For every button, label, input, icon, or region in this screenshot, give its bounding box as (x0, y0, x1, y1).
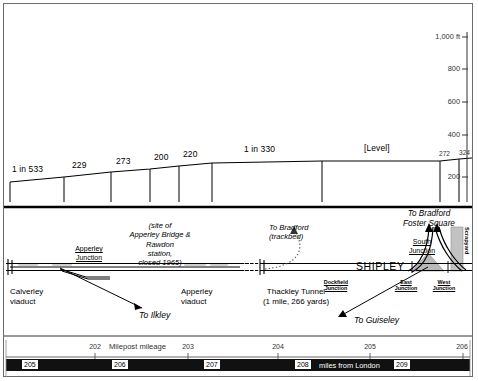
gradient-label-273: 273 (116, 156, 130, 166)
scale-tick-205: 205 (355, 343, 385, 350)
route-plan-panel: Calverleyviaduct Apperleyviaduct Apperle… (4, 205, 472, 338)
apperley-junction-label: ApperleyJunction (61, 245, 117, 262)
south-junction-label: SouthJunction (400, 238, 444, 255)
dockfield-junction-label: DockfieldJunction (316, 279, 356, 291)
milepost-box-205: 205 (22, 360, 38, 369)
shipley-station-label: SHIPLEY (356, 260, 405, 272)
milepost-box-208: 208 (295, 360, 311, 369)
gradient-label-level: [Level] (364, 143, 390, 153)
scale-tick-202: 202 (80, 343, 110, 350)
west-junction-label: WestJunction (428, 279, 460, 291)
miles-from-london-caption: miles from London (319, 361, 380, 370)
to-bradford-foster-square-label: To BradfordFoster Square (386, 209, 472, 228)
milepost-scale-panel: 202 203 204 205 206 Milepost mileage 205… (4, 340, 472, 376)
axis-tick-600: 600 (412, 97, 460, 106)
scale-tick-206: 206 (447, 343, 472, 350)
axis-tick-800: 800 (412, 64, 460, 73)
calverley-viaduct-label: Calverleyviaduct (10, 287, 43, 307)
gradient-label-272: 272 (439, 150, 450, 157)
axis-tick-200: 200 (412, 172, 460, 181)
milepost-box-206: 206 (112, 360, 128, 369)
apperley-viaduct-label: Apperleyviaduct (181, 287, 213, 307)
gradient-label-229: 229 (72, 160, 86, 170)
gradient-label-200: 200 (154, 152, 168, 162)
axis-tick-1000ft: 1,000 ft (412, 32, 460, 41)
axis-tick-400: 400 (412, 130, 460, 139)
gradient-label-1-in-330: 1 in 330 (244, 144, 275, 154)
gradient-label-324: 324 (459, 149, 470, 156)
to-bradford-trackbed-label: To Bradford(trackbed) (269, 223, 308, 241)
to-ilkley-arrowhead (134, 303, 142, 310)
gradient-label-220: 220 (183, 149, 197, 159)
scale-graphics (4, 340, 472, 376)
gradient-profile-diagram: 1 in 533 229 273 200 220 1 in 330 [Level… (0, 0, 478, 381)
to-ilkley-label: To Ilkley (139, 310, 170, 320)
to-ilkley-arrow (60, 268, 142, 308)
gradient-profile-panel: 1 in 533 229 273 200 220 1 in 330 [Level… (4, 4, 472, 202)
to-guiseley-label: To Guiseley (354, 315, 399, 325)
milepost-box-207: 207 (204, 360, 220, 369)
scrapyard-label: Scrapyard (464, 227, 470, 254)
milepost-mileage-caption: Milepost mileage (109, 342, 166, 351)
scale-tick-203: 203 (173, 343, 203, 350)
gradient-label-1-in-533: 1 in 533 (12, 164, 43, 174)
scale-axis-ticks (95, 353, 463, 360)
scrapyard-shape (451, 227, 463, 271)
profile-graphics (4, 4, 472, 202)
scale-tick-204: 204 (263, 343, 293, 350)
east-junction-label: EastJunction (390, 279, 422, 291)
apperley-bridge-site-note: (site of Apperley Bridge & Rawdon statio… (110, 221, 210, 267)
milepost-box-209: 209 (394, 360, 410, 369)
